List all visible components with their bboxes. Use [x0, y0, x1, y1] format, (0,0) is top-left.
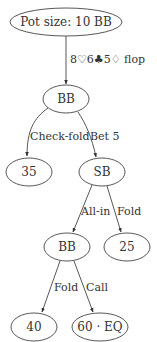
- edge-label-check-fold: Check-fold: [30, 130, 90, 143]
- node-25: 25: [104, 233, 150, 261]
- node-root: Pot size: 10 BB: [10, 8, 122, 36]
- edge-label-fold-bb: Fold: [54, 281, 78, 294]
- node-35-label: 35: [21, 165, 36, 179]
- node-bb2-label: BB: [58, 240, 76, 254]
- edge-label-call: Call: [86, 281, 108, 294]
- node-sb: SB: [79, 158, 125, 186]
- node-60-eq-label: 60 · EQ: [77, 320, 122, 334]
- node-root-label: Pot size: 10 BB: [20, 15, 112, 29]
- node-40-label: 40: [26, 320, 41, 334]
- edge-label-flop: 8♡6♣5♢ flop: [70, 53, 145, 66]
- edge-label-all-in: All-in: [80, 205, 110, 218]
- edge-label-fold-sb: Fold: [117, 205, 141, 218]
- node-sb-label: SB: [93, 165, 110, 179]
- edge-label-bet: Bet 5: [90, 130, 120, 143]
- node-bb1-label: BB: [57, 92, 75, 106]
- node-35: 35: [6, 158, 52, 186]
- node-60-eq: 60 · EQ: [72, 313, 128, 341]
- node-25-label: 25: [119, 240, 134, 254]
- game-tree-diagram: 8♡6♣5♢ flop Check-fold Bet 5 All-in Fold…: [0, 0, 157, 342]
- node-40: 40: [11, 313, 57, 341]
- node-bb1: BB: [43, 85, 89, 113]
- node-bb2: BB: [44, 233, 90, 261]
